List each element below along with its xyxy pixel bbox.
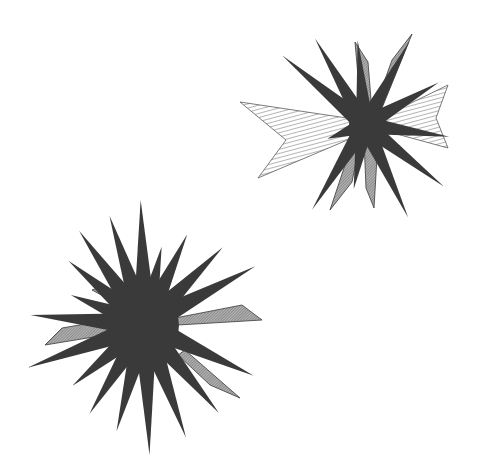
starburst-core — [111, 291, 179, 359]
starburst-core — [349, 109, 381, 141]
illustration-canvas — [0, 0, 477, 475]
lower-left-starburst — [28, 200, 262, 455]
upper-right-starburst — [240, 34, 449, 217]
